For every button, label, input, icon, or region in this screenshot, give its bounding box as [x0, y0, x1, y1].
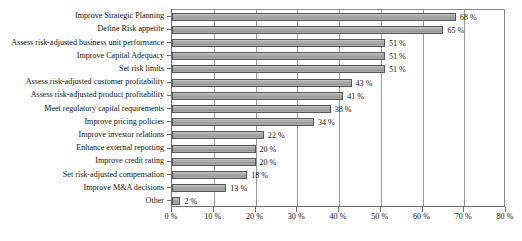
bar	[172, 197, 180, 205]
bar	[172, 26, 443, 34]
bar-value-label: 38 %	[335, 105, 352, 114]
bar	[172, 105, 331, 113]
bar-value-label: 18 %	[251, 171, 268, 180]
category-label: Meet regulatory capital requirements	[0, 104, 164, 113]
category-label: Enhance external reporting	[0, 143, 164, 152]
value-axis-label: 0 %	[165, 212, 178, 222]
category-label: Improve M&A decisions	[0, 183, 164, 192]
bar	[172, 118, 314, 126]
bar	[172, 158, 256, 166]
bar-row: 20 %	[172, 158, 504, 166]
bar	[172, 145, 256, 153]
value-axis-label: 30 %	[288, 212, 305, 222]
bar	[172, 131, 264, 139]
bar	[172, 184, 226, 192]
bar-value-label: 22 %	[268, 131, 285, 140]
bar-row: 34 %	[172, 118, 504, 126]
category-label: Other	[0, 196, 164, 205]
category-label: Improve credit rating	[0, 156, 164, 165]
category-label: Improve investor relations	[0, 130, 164, 139]
bar	[172, 13, 456, 21]
bar-value-label: 13 %	[230, 184, 247, 193]
bar-value-label: 43 %	[356, 78, 373, 87]
bar	[172, 92, 343, 100]
bar	[172, 39, 385, 47]
bar-series: 68 %65 %51 %51 %51 %43 %41 %38 %34 %22 %…	[172, 10, 504, 206]
value-axis-label: 40 %	[330, 212, 347, 222]
bar-chart: Improve Strategic PlanningDefine Risk ap…	[0, 0, 522, 241]
bar-row: 41 %	[172, 92, 504, 100]
category-label: Assess risk-adjusted customer profitabil…	[0, 77, 164, 86]
category-label: Set risk-adjusted compensation	[0, 170, 164, 179]
category-axis-labels: Improve Strategic PlanningDefine Risk ap…	[0, 9, 168, 207]
value-axis-label: 60 %	[413, 212, 430, 222]
bar-value-label: 65 %	[447, 25, 464, 34]
bar-row: 68 %	[172, 13, 504, 21]
bar-value-label: 20 %	[260, 157, 277, 166]
bar	[172, 79, 352, 87]
plot-area: 68 %65 %51 %51 %51 %43 %41 %38 %34 %22 %…	[171, 9, 505, 207]
bar-row: 38 %	[172, 105, 504, 113]
category-label: Improve pricing policies	[0, 117, 164, 126]
bar-row: 51 %	[172, 65, 504, 73]
bar-row: 51 %	[172, 52, 504, 60]
bar-row: 20 %	[172, 145, 504, 153]
value-axis-label: 20 %	[246, 212, 263, 222]
bar-value-label: 20 %	[260, 144, 277, 153]
bar-value-label: 34 %	[318, 118, 335, 127]
bar-row: 13 %	[172, 184, 504, 192]
bar-row: 22 %	[172, 131, 504, 139]
category-label: Improve Strategic Planning	[0, 11, 164, 20]
bar	[172, 171, 247, 179]
category-label: Set risk limits	[0, 64, 164, 73]
bar-row: 43 %	[172, 79, 504, 87]
value-axis-label: 80 %	[497, 212, 514, 222]
bar-value-label: 68 %	[460, 12, 477, 21]
bar	[172, 65, 385, 73]
value-axis-label: 10 %	[204, 212, 221, 222]
bar-row: 51 %	[172, 39, 504, 47]
category-label: Assess risk-adjusted product profitabili…	[0, 90, 164, 99]
category-label: Improve Capital Adequacy	[0, 51, 164, 60]
bar-value-label: 51 %	[389, 65, 406, 74]
value-axis-label: 70 %	[455, 212, 472, 222]
bar-value-label: 2 %	[184, 197, 197, 206]
value-axis-label: 50 %	[371, 212, 388, 222]
bar-value-label: 51 %	[389, 39, 406, 48]
category-label: Define Risk appetite	[0, 24, 164, 33]
category-label: Assess risk-adjusted business unit perfo…	[0, 38, 164, 47]
bar-value-label: 41 %	[347, 91, 364, 100]
bar-row: 18 %	[172, 171, 504, 179]
bar-value-label: 51 %	[389, 52, 406, 61]
bar-row: 2 %	[172, 197, 504, 205]
value-axis-labels: 0 %10 %20 %30 %40 %50 %60 %70 %80 %	[171, 212, 505, 228]
bar	[172, 52, 385, 60]
bar-row: 65 %	[172, 26, 504, 34]
